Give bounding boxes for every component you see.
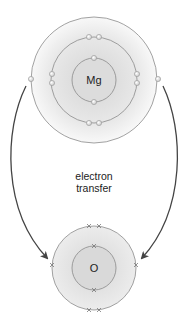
electron-dot-icon xyxy=(86,120,91,125)
electron-dot-icon xyxy=(49,80,54,85)
electron-dot-icon xyxy=(134,71,139,76)
electron-dot-icon xyxy=(155,76,160,81)
electron-dot-icon xyxy=(96,120,101,125)
electron-dot-icon xyxy=(86,34,91,39)
electron-dot-icon xyxy=(28,76,33,81)
electron-dot-icon xyxy=(134,80,139,85)
transfer-label-line1: electron xyxy=(54,170,134,182)
transfer-label: electron transfer xyxy=(54,170,134,194)
mg-symbol: Mg xyxy=(82,74,106,86)
o-symbol: O xyxy=(82,262,106,274)
electron-dot-icon xyxy=(91,99,96,104)
electron-dot-icon xyxy=(91,55,96,60)
electron-dot-icon xyxy=(49,71,54,76)
electron-dot-icon xyxy=(96,34,101,39)
transfer-label-line2: transfer xyxy=(54,182,134,194)
